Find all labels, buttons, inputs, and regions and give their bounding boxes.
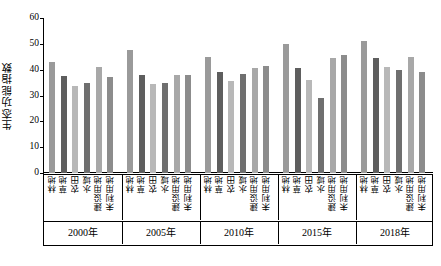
y-axis-tick-label: 60 [19, 13, 39, 23]
category-label-4: 建设用地 [250, 174, 262, 220]
category-label-5: 未利用地 [261, 174, 273, 220]
category-label-1: 草地 [293, 174, 305, 220]
category-label-2: 农田 [227, 174, 239, 220]
y-axis-tick-label: 30 [19, 91, 39, 101]
category-label-text: 未利用地 [263, 175, 272, 211]
category-label-text: 林地 [205, 175, 214, 193]
bar [84, 83, 90, 173]
category-label-text: 农田 [306, 175, 315, 193]
category-label-0: 林地 [359, 174, 371, 220]
category-label-0: 林地 [47, 174, 59, 220]
bar [263, 66, 269, 173]
bar [174, 75, 180, 173]
bar [96, 67, 102, 173]
bar [384, 67, 390, 173]
category-label-text: 农田 [228, 175, 237, 193]
category-label-5: 未利用地 [183, 174, 195, 220]
category-label-band: 林地草地农田水域建设用地未利用地林地草地农田水域建设用地未利用地林地草地农田水域… [43, 174, 433, 222]
year-label-3: 2015年 [278, 221, 356, 244]
group-divider [278, 174, 279, 220]
category-label-text: 农田 [72, 175, 81, 193]
y-axis-title-text: 生态功能指数 [3, 61, 14, 130]
category-label-text: 建设用地 [407, 175, 416, 211]
bars-layer [43, 18, 433, 173]
category-label-0: 林地 [281, 174, 293, 220]
bar [408, 57, 414, 173]
category-label-3: 水域 [238, 174, 250, 220]
group-divider [200, 174, 201, 220]
year-divider [278, 221, 279, 244]
year-divider [200, 221, 201, 244]
bar [373, 58, 379, 173]
category-label-3: 水域 [82, 174, 94, 220]
category-label-text: 建设用地 [329, 175, 338, 211]
category-label-1: 草地 [215, 174, 227, 220]
category-label-4: 建设用地 [94, 174, 106, 220]
year-label-1: 2005年 [122, 221, 200, 244]
category-label-1: 草地 [137, 174, 149, 220]
bar [205, 57, 211, 173]
year-label-4: 2018年 [356, 221, 434, 244]
bar [139, 75, 145, 173]
bar [228, 81, 234, 173]
category-label-text: 水域 [318, 175, 327, 193]
bar [341, 55, 347, 173]
bar [252, 68, 258, 173]
bar [361, 41, 367, 173]
year-label-text: 2015年 [302, 228, 332, 238]
bar [396, 70, 402, 173]
category-label-text: 建设用地 [251, 175, 260, 211]
category-label-2: 农田 [383, 174, 395, 220]
bar [61, 76, 67, 173]
bar [330, 58, 336, 173]
bar [318, 98, 324, 173]
category-label-text: 林地 [49, 175, 58, 193]
group-divider [122, 174, 123, 220]
category-label-3: 水域 [160, 174, 172, 220]
bar [127, 50, 133, 173]
category-label-text: 农田 [384, 175, 393, 193]
category-label-5: 未利用地 [339, 174, 351, 220]
category-label-text: 未利用地 [419, 175, 428, 211]
category-label-text: 水域 [240, 175, 249, 193]
category-label-text: 草地 [372, 175, 381, 193]
y-axis-tick-label: 10 [19, 142, 39, 152]
y-axis-tick-label: 40 [19, 65, 39, 75]
category-label-text: 农田 [150, 175, 159, 193]
category-label-5: 未利用地 [105, 174, 117, 220]
category-label-3: 水域 [316, 174, 328, 220]
category-label-text: 林地 [283, 175, 292, 193]
category-label-4: 建设用地 [406, 174, 418, 220]
bar [185, 75, 191, 173]
year-label-text: 2010年 [224, 228, 254, 238]
category-label-text: 未利用地 [185, 175, 194, 211]
category-label-2: 农田 [149, 174, 161, 220]
y-axis-tick-label: 0 [19, 168, 39, 178]
bar [217, 72, 223, 173]
bar [306, 80, 312, 173]
category-label-0: 林地 [203, 174, 215, 220]
bar [283, 44, 289, 173]
category-label-4: 建设用地 [172, 174, 184, 220]
category-label-1: 草地 [59, 174, 71, 220]
year-label-0: 2000年 [44, 221, 122, 244]
category-label-text: 林地 [361, 175, 370, 193]
category-label-2: 农田 [305, 174, 317, 220]
category-label-4: 建设用地 [328, 174, 340, 220]
bar [419, 72, 425, 173]
y-axis-tick-labels: 0102030405060 [16, 0, 39, 266]
category-label-text: 草地 [60, 175, 69, 193]
bar-chart: 生态功能指数 0102030405060 林地草地农田水域建设用地未利用地林地草… [0, 0, 441, 266]
bar [240, 74, 246, 173]
category-label-3: 水域 [394, 174, 406, 220]
category-label-5: 未利用地 [417, 174, 429, 220]
year-divider [356, 221, 357, 244]
bar [295, 68, 301, 173]
category-label-text: 草地 [138, 175, 147, 193]
category-label-text: 建设用地 [95, 175, 104, 211]
year-label-band: 2000年2005年2010年2015年2018年 [43, 221, 433, 246]
category-label-text: 未利用地 [107, 175, 116, 211]
group-divider [356, 174, 357, 220]
category-label-text: 草地 [294, 175, 303, 193]
bar [162, 83, 168, 173]
